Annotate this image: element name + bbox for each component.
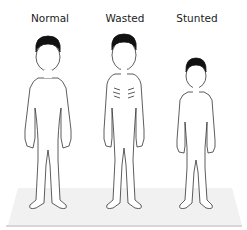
figure-stunted [177, 58, 216, 209]
head-normal [36, 43, 60, 71]
figure-wasted [104, 34, 145, 209]
neck-normal [44, 70, 52, 78]
neck-wasted [121, 68, 127, 76]
illustration [0, 0, 247, 230]
figure-normal [25, 36, 72, 209]
neck-stunted [193, 86, 199, 93]
